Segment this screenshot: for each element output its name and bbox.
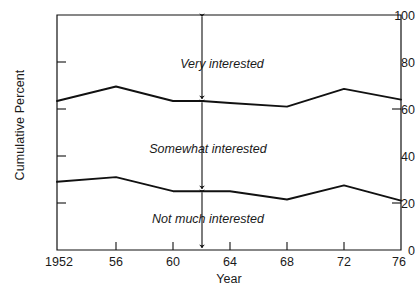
- plot-svg: [0, 0, 415, 292]
- series-upper-line: [57, 87, 401, 107]
- y-axis-ticks: [57, 62, 401, 203]
- x-axis-ticks: [116, 242, 344, 250]
- chart-container: Cumulative Percent 100 80 60 40 20 0 195…: [0, 0, 415, 292]
- plot-frame: [57, 15, 401, 250]
- series-lower-line: [57, 177, 401, 201]
